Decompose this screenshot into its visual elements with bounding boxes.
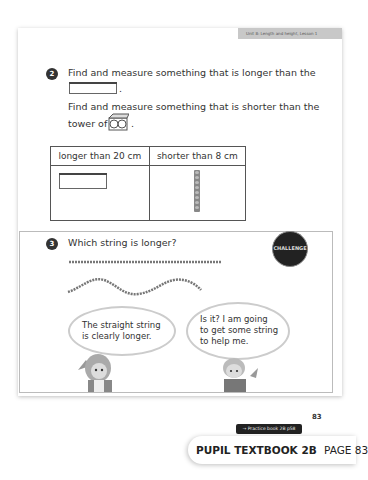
pencil-case-image bbox=[59, 174, 107, 189]
q2-line3: tower of bbox=[68, 118, 107, 129]
question-number-3: 3 bbox=[46, 238, 58, 250]
speech-bubble-right: Is it? I am going to get some string to … bbox=[186, 302, 290, 360]
bubble-left-line2: is clearly longer. bbox=[82, 331, 152, 342]
table-cell-shorter bbox=[149, 166, 245, 221]
girl-character bbox=[72, 352, 128, 392]
page-number: 83 bbox=[312, 413, 322, 421]
table-cell-longer bbox=[51, 166, 150, 221]
challenge-badge: CHALLENGE bbox=[272, 231, 308, 267]
pencil-case-icon bbox=[69, 83, 117, 94]
question-number-2: 2 bbox=[46, 68, 58, 80]
bubble-right-line2: to get some string bbox=[200, 325, 278, 336]
book-footer-label: PUPIL TEXTBOOK 2B PAGE 83 bbox=[188, 436, 356, 464]
wavy-string bbox=[68, 279, 201, 294]
boy-character bbox=[212, 356, 264, 392]
cube-tower-icon bbox=[107, 113, 129, 131]
strings-illustration bbox=[66, 258, 226, 306]
table-header-longer: longer than 20 cm bbox=[51, 147, 150, 166]
q2-line1: Find and measure something that is longe… bbox=[68, 67, 316, 78]
practice-book-link[interactable]: → Practice book 2B p58 bbox=[236, 424, 302, 434]
measure-table: longer than 20 cm shorter than 8 cm bbox=[50, 146, 246, 221]
bubble-right-line1: Is it? I am going bbox=[200, 314, 268, 325]
bubble-left-line1: The straight string bbox=[82, 320, 161, 331]
q3-prompt: Which string is longer? bbox=[68, 237, 177, 248]
book-page: PAGE 83 bbox=[324, 444, 368, 456]
bubble-right-line3: to help me. bbox=[200, 336, 249, 347]
speech-bubble-left: The straight string is clearly longer. bbox=[68, 306, 176, 356]
q2-line2: Find and measure something that is short… bbox=[68, 101, 319, 112]
unit-tab: Unit 8: Length and height, Lesson 1 bbox=[238, 28, 342, 39]
book-title: PUPIL TEXTBOOK 2B bbox=[196, 444, 317, 456]
q2-line1-end: . bbox=[119, 83, 122, 94]
cube-tower-image bbox=[194, 170, 200, 212]
q2-line3-end: . bbox=[131, 118, 134, 129]
table-header-shorter: shorter than 8 cm bbox=[149, 147, 245, 166]
